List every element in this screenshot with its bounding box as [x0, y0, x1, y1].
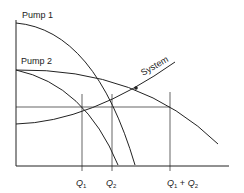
q2-label: Q2 — [106, 178, 117, 189]
pump2-curve — [16, 70, 118, 165]
system-label: System — [139, 54, 170, 78]
pump1-label: Pump 1 — [22, 10, 53, 20]
q1-plus-q2-label: Q1 + Q2 — [167, 178, 199, 189]
q1-label: Q1 — [76, 178, 87, 189]
pump2-label: Pump 2 — [21, 56, 52, 66]
pump1-curve — [16, 23, 135, 165]
operating-point — [134, 86, 138, 90]
pump-curve-diagram: Pump 1 Pump 2 System Q1 Q2 Q1 + Q2 — [0, 0, 244, 193]
